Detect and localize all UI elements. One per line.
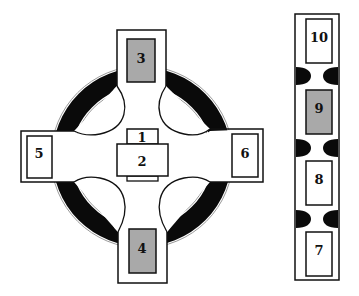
box-6: 6 bbox=[232, 134, 258, 177]
box-3: 3 bbox=[127, 39, 155, 82]
diagram-canvas: 3 4 5 6 1 2 10 bbox=[0, 0, 359, 296]
box-8-label: 8 bbox=[314, 172, 323, 187]
column: 10 9 8 7 bbox=[295, 14, 339, 280]
box-9: 9 bbox=[306, 90, 332, 134]
box-10-label: 10 bbox=[310, 30, 328, 45]
box-3-label: 3 bbox=[136, 51, 145, 66]
box-5: 5 bbox=[27, 136, 52, 178]
box-1-label: 1 bbox=[137, 130, 146, 145]
box-1: 1 bbox=[127, 129, 158, 145]
box-2-label: 2 bbox=[137, 154, 146, 169]
box-8: 8 bbox=[306, 161, 332, 205]
box-4: 4 bbox=[129, 229, 156, 273]
box-7: 7 bbox=[306, 232, 332, 276]
box-6-label: 6 bbox=[240, 146, 249, 161]
box-10: 10 bbox=[306, 19, 332, 63]
box-5-label: 5 bbox=[34, 146, 43, 161]
box-7-label: 7 bbox=[314, 243, 323, 258]
box-2: 2 bbox=[117, 144, 168, 176]
box-4-label: 4 bbox=[137, 241, 146, 256]
box-9-label: 9 bbox=[314, 101, 323, 116]
